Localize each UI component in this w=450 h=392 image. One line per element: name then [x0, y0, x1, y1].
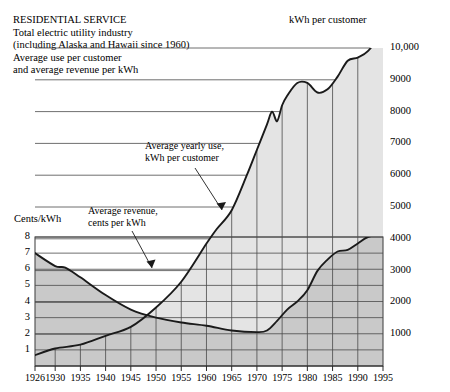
- left-tick-label-2: 2: [14, 327, 30, 338]
- left-tick-label-6: 6: [14, 262, 30, 273]
- right-tick-label-8000: 8000: [390, 105, 411, 116]
- left-tick-label-4: 4: [14, 295, 30, 306]
- right-tick-label-6000: 6000: [390, 168, 411, 179]
- left-tick-label-8: 8: [14, 230, 30, 241]
- right-tick-label-10000: 10,000: [390, 41, 419, 52]
- x-axis-ticks: [35, 366, 383, 371]
- right-tick-label-9000: 9000: [390, 73, 411, 84]
- left-tick-label-5: 5: [14, 278, 30, 289]
- right-tick-label-3000: 3000: [390, 264, 411, 275]
- right-tick-label-4000: 4000: [390, 232, 411, 243]
- chart-figure: RESIDENTIAL SERVICE Total electric utili…: [0, 0, 450, 392]
- x-tick-label-1995: 1995: [363, 372, 403, 383]
- left-tick-label-7: 7: [14, 246, 30, 257]
- right-tick-label-7000: 7000: [390, 136, 411, 147]
- plot-area: [0, 0, 450, 392]
- right-tick-label-5000: 5000: [390, 200, 411, 211]
- left-tick-label-3: 3: [14, 311, 30, 322]
- left-tick-label-1: 1: [14, 343, 30, 354]
- right-tick-label-1000: 1000: [390, 327, 411, 338]
- right-tick-label-2000: 2000: [390, 295, 411, 306]
